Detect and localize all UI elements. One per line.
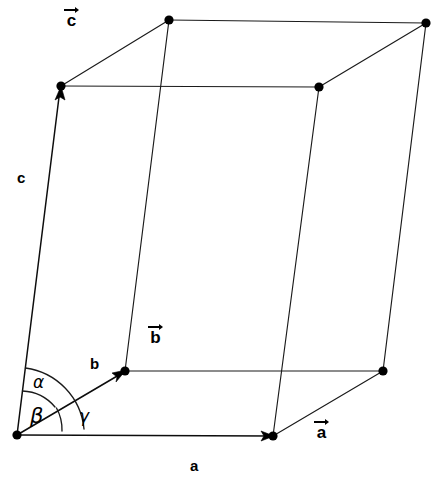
axis-label-c: c (17, 170, 25, 185)
basis-vectors (17, 86, 274, 441)
unit-cell-diagram: c c b b a a α β γ (0, 0, 443, 488)
axis-label-b: b (90, 356, 99, 371)
angle-label-beta: β (30, 406, 43, 427)
lattice-points (12, 15, 430, 440)
edge-ac-ctip (61, 86, 319, 87)
unit-cell-svg (0, 0, 443, 488)
lattice-dot-b-tip (120, 366, 129, 375)
vector-a-line (17, 435, 271, 436)
vector-b-label: b (148, 323, 163, 346)
lattice-dot-a-tip (268, 431, 277, 440)
edge-ctip-bc (61, 20, 169, 86)
vector-b-overbar-arrow-icon (148, 323, 163, 330)
vector-c-label: c (64, 6, 79, 29)
angle-label-alpha: α (33, 374, 44, 391)
lattice-dot-a-plus-b (378, 366, 387, 375)
vector-a-label: a (314, 418, 329, 441)
lattice-dot-b-plus-c (164, 15, 173, 24)
lattice-dot-a-plus-c (314, 82, 323, 91)
lattice-dot-a-plus-b-plus-c (421, 18, 430, 27)
axis-label-a: a (190, 458, 198, 473)
vector-a-overbar-arrow-icon (314, 418, 329, 425)
lattice-dot-origin (12, 430, 21, 439)
edge-btip-bc (125, 20, 169, 371)
edge-ab-abc (383, 23, 426, 371)
vector-c-overbar-arrow-icon (64, 6, 79, 13)
edge-abc-ac (319, 23, 426, 87)
edge-atip-ac (273, 87, 319, 436)
edge-bc-abc (169, 20, 426, 23)
angle-label-gamma: γ (79, 408, 89, 425)
lattice-dot-c-tip (56, 81, 65, 90)
